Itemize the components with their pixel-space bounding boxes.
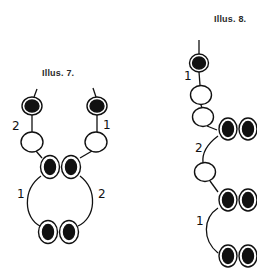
black-bead-pair-1 — [219, 118, 257, 140]
illus-8-label-first: 1 — [184, 70, 192, 82]
bead-diagrams — [0, 0, 257, 274]
white-bead — [193, 108, 214, 127]
illus-7-label-top-left: 2 — [12, 120, 20, 132]
illus-7-label-circle-right: 2 — [98, 188, 106, 200]
illus-8-label-third: 1 — [196, 215, 204, 227]
illus-7-label-circle-left: 1 — [17, 188, 25, 200]
black-bead-pair-2 — [219, 189, 257, 211]
white-bead — [191, 86, 212, 105]
black-bead — [190, 54, 209, 72]
white-bead — [21, 132, 43, 152]
illus-7-label-top-right: 1 — [103, 119, 111, 131]
illus-8 — [190, 54, 258, 267]
black-bead — [22, 97, 42, 115]
white-bead — [85, 132, 107, 152]
black-bead — [87, 97, 107, 115]
white-bead — [195, 163, 216, 182]
black-bead-pair-3 — [219, 245, 257, 267]
black-bead-pair-bottom — [39, 221, 79, 244]
illus-8-label-second: 2 — [195, 142, 203, 154]
black-bead-pair-top — [41, 156, 81, 179]
